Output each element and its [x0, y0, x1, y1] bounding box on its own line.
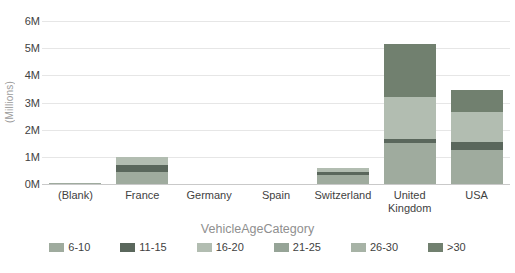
- x-axis-label: Spain: [243, 189, 310, 202]
- legend-swatch-icon: [49, 243, 64, 252]
- gridline: [42, 48, 510, 49]
- legend-item-21-25[interactable]: 21-25: [274, 241, 321, 253]
- bar-segment-france-16-20[interactable]: [116, 157, 168, 165]
- x-axis-label: Switzerland: [309, 189, 376, 202]
- bar-segment-usa-6-10[interactable]: [451, 150, 503, 184]
- bar-segment--blank--6-10[interactable]: [49, 183, 101, 184]
- legend-swatch-icon: [120, 243, 135, 252]
- y-tick-label: 1M: [25, 151, 40, 163]
- gridline: [42, 75, 510, 76]
- legend-label: 16-20: [216, 241, 244, 253]
- bar-segment-france-6-10[interactable]: [116, 172, 168, 184]
- bar-segment-united-kingdom--30[interactable]: [384, 44, 436, 97]
- legend: VehicleAgeCategory 6-1011-1516-2021-2526…: [0, 222, 515, 253]
- legend-swatch-icon: [428, 243, 443, 252]
- gridline: [42, 21, 510, 22]
- bar-segment-united-kingdom-16-20[interactable]: [384, 97, 436, 139]
- legend-label: 26-30: [370, 241, 398, 253]
- legend-item-26-30[interactable]: 26-30: [351, 241, 398, 253]
- legend-items: 6-1011-1516-2021-2526-30>30: [0, 241, 515, 253]
- legend-label: >30: [447, 241, 466, 253]
- gridline: [42, 130, 510, 131]
- y-tick-label: 0M: [25, 178, 40, 190]
- bar-segment-usa-11-15[interactable]: [451, 142, 503, 150]
- legend-item--30[interactable]: >30: [428, 241, 466, 253]
- legend-title: VehicleAgeCategory: [0, 222, 515, 236]
- y-tick-label: 4M: [25, 69, 40, 81]
- x-axis-label: (Blank): [42, 189, 109, 202]
- legend-swatch-icon: [197, 243, 212, 252]
- x-axis-label: France: [109, 189, 176, 202]
- y-tick-label: 5M: [25, 42, 40, 54]
- legend-item-6-10[interactable]: 6-10: [49, 241, 90, 253]
- gridline: [42, 157, 510, 158]
- x-axis-labels: (Blank)FranceGermanySpainSwitzerlandUnit…: [42, 189, 510, 219]
- legend-label: 21-25: [293, 241, 321, 253]
- legend-swatch-icon: [274, 243, 289, 252]
- stacked-column-chart: (Millions) 0M1M2M3M4M5M6M (Blank)FranceG…: [0, 0, 515, 273]
- legend-label: 11-15: [139, 241, 166, 253]
- x-axis-label: Germany: [176, 189, 243, 202]
- legend-item-16-20[interactable]: 16-20: [197, 241, 244, 253]
- y-axis-ticks: 0M1M2M3M4M5M6M: [14, 21, 40, 184]
- y-tick-label: 2M: [25, 124, 40, 136]
- y-tick-label: 3M: [25, 97, 40, 109]
- x-axis-label: United Kingdom: [376, 189, 443, 215]
- gridline: [42, 103, 510, 104]
- bar-segment-switzerland-6-10[interactable]: [317, 175, 369, 185]
- bar-segment-united-kingdom-11-15[interactable]: [384, 139, 436, 143]
- bar-segment-france-11-15[interactable]: [116, 165, 168, 172]
- legend-item-11-15[interactable]: 11-15: [120, 241, 166, 253]
- bar-segment-usa-16-20[interactable]: [451, 112, 503, 142]
- legend-label: 6-10: [68, 241, 90, 253]
- bar-segment-switzerland-16-20[interactable]: [317, 168, 369, 172]
- x-axis-label: USA: [443, 189, 510, 202]
- bar-segment-switzerland-11-15[interactable]: [317, 172, 369, 175]
- plot-area: [42, 21, 510, 184]
- bar-segment-usa--30[interactable]: [451, 90, 503, 112]
- legend-swatch-icon: [351, 243, 366, 252]
- y-tick-label: 6M: [25, 15, 40, 27]
- x-axis-line: [42, 184, 510, 185]
- bar-segment-united-kingdom-6-10[interactable]: [384, 143, 436, 184]
